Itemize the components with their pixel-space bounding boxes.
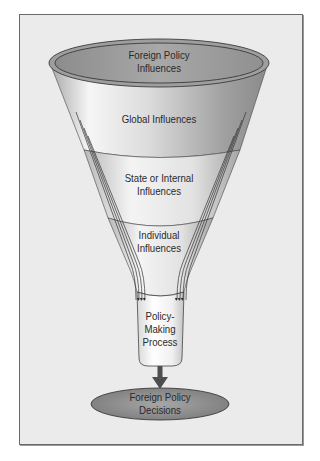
label-decisions: Foreign Policy Decisions [109, 391, 210, 417]
label-global: Global Influences [99, 113, 219, 126]
label-state: State or Internal Influences [108, 172, 209, 198]
label-individual: Individual Influences [118, 229, 201, 255]
label-rim: Foreign Policy Influences [108, 49, 209, 75]
label-process: Policy- Making Process [128, 310, 192, 349]
output-arrow-icon [152, 366, 168, 389]
